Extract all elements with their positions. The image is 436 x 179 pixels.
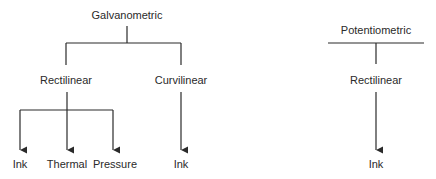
node-galvanometric: Galvanometric	[92, 9, 163, 21]
leaf-pressure: Pressure	[93, 158, 137, 170]
leaf-curvilinear-ink: Ink	[174, 158, 189, 170]
node-galvanometric-rectilinear: Rectilinear	[40, 74, 92, 86]
node-potentiometric: Potentiometric	[341, 24, 411, 36]
leaf-thermal: Thermal	[47, 158, 87, 170]
leaf-ink: Ink	[13, 158, 28, 170]
leaf-potentiometric-ink: Ink	[369, 158, 384, 170]
node-potentiometric-rectilinear: Rectilinear	[350, 74, 402, 86]
node-galvanometric-curvilinear: Curvilinear	[155, 74, 208, 86]
